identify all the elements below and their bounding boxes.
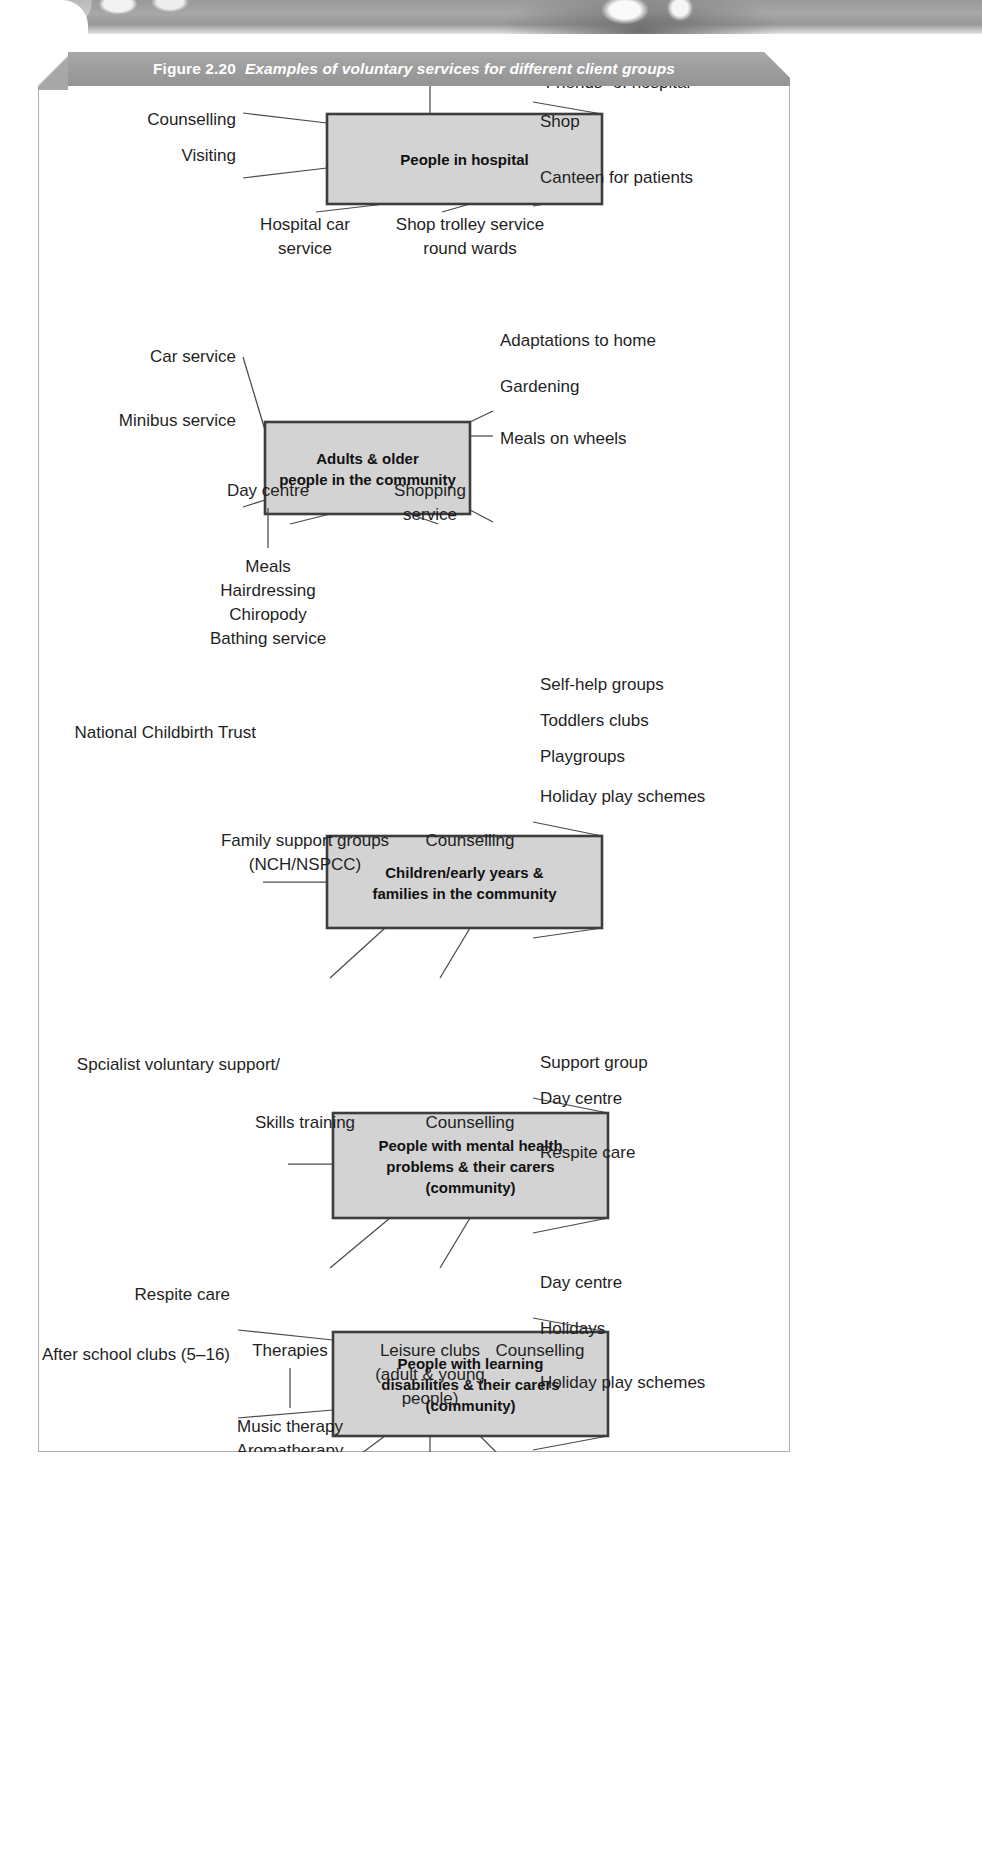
sublabel-line: Chiropody — [229, 605, 307, 624]
label-left-1: After school clubs (5–16) — [42, 1345, 230, 1364]
label-right-2: Playgroups — [540, 747, 625, 766]
label-line: Adaptations to home — [500, 331, 656, 350]
sublabel-adults-older-people-0: MealsHairdressingChiropodyBathing servic… — [210, 557, 326, 648]
figure-number: Figure 2.20 — [153, 60, 236, 78]
label-bottom-0: Skills training — [255, 1113, 355, 1132]
node-title-line: problems & their carers — [386, 1158, 554, 1175]
label-left-1: Visiting — [182, 146, 237, 165]
label-right-1: Day centre — [540, 1089, 622, 1108]
leader-line — [243, 113, 327, 123]
leader-line — [533, 1436, 608, 1450]
leader-line — [533, 928, 602, 938]
label-bottom-1: Counselling — [426, 831, 515, 850]
node-title-line: (community) — [426, 1179, 516, 1196]
label-line: Counselling — [496, 1341, 585, 1360]
diagram-canvas: People in hospitalBereavement serviceCou… — [38, 86, 790, 1452]
block-learning-disabilities: People with learningdisabilities & their… — [42, 1273, 705, 1452]
leader-line — [243, 168, 327, 178]
label-line: National Childbirth Trust — [75, 723, 257, 742]
label-line: Spcialist voluntary support/ — [77, 1055, 280, 1074]
leader-line — [440, 928, 470, 978]
node-title-line: Children/early years & — [385, 864, 544, 881]
label-line: Toddlers clubs — [540, 711, 649, 730]
node-title-line: People in hospital — [400, 151, 528, 168]
block-children-families: Children/early years &families in the co… — [75, 675, 706, 978]
label-right-1: Shop — [540, 112, 580, 131]
sublabel-line: Meals — [245, 557, 290, 576]
leader-line — [470, 510, 493, 522]
label-line: Counselling — [426, 1113, 515, 1132]
label-line: Support group — [540, 1053, 648, 1072]
label-bottom-0: Day centre — [227, 481, 309, 500]
label-left-0: Counselling — [147, 110, 236, 129]
node-title-line: Adults & older — [316, 450, 419, 467]
label-line: After school clubs (5–16) — [42, 1345, 230, 1364]
label-line: Meals on wheels — [500, 429, 627, 448]
leader-line — [480, 1436, 528, 1452]
label-right-2: Canteen for patients — [540, 168, 693, 187]
label-bottom-1: Counselling — [426, 1113, 515, 1132]
label-line: Minibus service — [119, 411, 236, 430]
photo-strip-left-fade — [0, 0, 92, 30]
label-left-0: National Childbirth Trust — [75, 723, 257, 742]
leader-line — [533, 822, 602, 836]
label-line: Shop trolley service — [396, 215, 544, 234]
label-line: Holiday play schemes — [540, 787, 705, 806]
sublabel-line: Hairdressing — [220, 581, 315, 600]
leader-line — [330, 1218, 390, 1268]
leader-line — [533, 1218, 608, 1233]
label-line: Self-help groups — [540, 675, 664, 694]
label-right-2: Holiday play schemes — [540, 1373, 705, 1392]
label-right-0: Self-help groups — [540, 675, 664, 694]
label-line: Holiday play schemes — [540, 1373, 705, 1392]
label-right-3: Holiday play schemes — [540, 787, 705, 806]
label-left-0: Spcialist voluntary support/ — [77, 1055, 280, 1074]
voluntary-services-diagram: People in hospitalBereavement serviceCou… — [38, 86, 790, 1452]
label-bottom-2: Counselling — [496, 1341, 585, 1360]
sublabel-line: Bathing service — [210, 629, 326, 648]
label-line: Visiting — [182, 146, 237, 165]
leader-line — [330, 928, 385, 978]
figure-caption: Figure 2.20 Examples of voluntary servic… — [38, 52, 790, 86]
label-line: Family support groups — [221, 831, 389, 850]
label-right-2: Meals on wheels — [500, 429, 627, 448]
sublabel-line: Music therapy — [237, 1417, 343, 1436]
node-title-people-in-hospital: People in hospital — [400, 151, 528, 168]
label-line: (adult & young — [375, 1365, 485, 1384]
label-right-2: Respite care — [540, 1143, 635, 1162]
label-line: Shopping — [394, 481, 466, 500]
label-line: Skills training — [255, 1113, 355, 1132]
label-right-1: Holidays — [540, 1319, 605, 1338]
label-right-1: Toddlers clubs — [540, 711, 649, 730]
label-left-1: Minibus service — [119, 411, 236, 430]
label-line: Car service — [150, 347, 236, 366]
sublabel-line: Aromatherapy — [237, 1441, 344, 1452]
leader-line — [440, 1218, 470, 1268]
node-box-adults-older-people[interactable] — [265, 422, 470, 514]
figure-caption-text: Examples of voluntary services for diffe… — [245, 60, 675, 78]
label-right-1: Gardening — [500, 377, 579, 396]
label-line: round wards — [423, 239, 517, 258]
label-bottom-0: Hospital carservice — [260, 215, 350, 258]
label-line: people) — [402, 1389, 459, 1408]
label-right-0: Support group — [540, 1053, 648, 1072]
block-mental-health: People with mental healthproblems & thei… — [77, 1053, 648, 1268]
label-line: “Friends” of hospital — [540, 86, 690, 92]
label-line: Holidays — [540, 1319, 605, 1338]
label-bottom-0: Therapies — [252, 1341, 328, 1360]
label-line: Leisure clubs — [380, 1341, 480, 1360]
label-line: service — [278, 239, 332, 258]
leader-line — [243, 357, 265, 430]
label-right-0: Adaptations to home — [500, 331, 656, 350]
node-title-line: People with mental health — [378, 1137, 562, 1154]
label-bottom-1: Shop trolley serviceround wards — [396, 215, 544, 258]
leader-line — [238, 1330, 333, 1340]
label-line: Hospital car — [260, 215, 350, 234]
label-line: (NCH/NSPCC) — [249, 855, 361, 874]
label-line: Day centre — [540, 1089, 622, 1108]
label-line: Respite care — [540, 1143, 635, 1162]
leader-line — [243, 500, 265, 507]
decorative-photo-strip — [0, 0, 982, 34]
leader-line — [290, 514, 330, 524]
label-line: Day centre — [227, 481, 309, 500]
